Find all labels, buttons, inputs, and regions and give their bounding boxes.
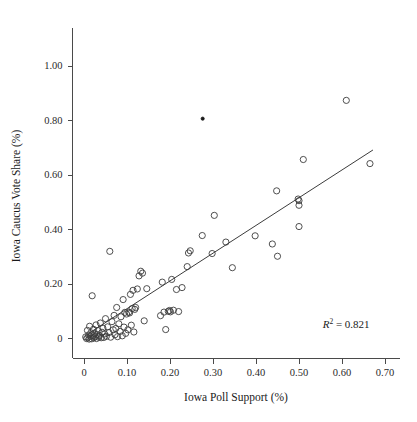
data-point bbox=[144, 286, 150, 292]
data-point-highlight bbox=[201, 117, 204, 120]
x-tick-label: 0.10 bbox=[118, 367, 136, 378]
data-point bbox=[89, 293, 95, 299]
data-point bbox=[300, 156, 306, 162]
data-point bbox=[131, 329, 137, 335]
data-point bbox=[163, 326, 169, 332]
x-axis-title: Iowa Poll Support (%) bbox=[184, 391, 288, 404]
chart-canvas: 00.200.400.600.801.00 00.100.200.300.400… bbox=[0, 0, 417, 422]
data-point bbox=[274, 188, 280, 194]
data-point bbox=[179, 284, 185, 290]
y-tick-label: 0.80 bbox=[44, 115, 62, 126]
data-point bbox=[157, 313, 163, 319]
x-tick-label: 0.40 bbox=[247, 367, 265, 378]
y-tick-label: 1.00 bbox=[44, 60, 62, 71]
data-point bbox=[296, 202, 302, 208]
data-point bbox=[343, 97, 349, 103]
y-axis-ticks: 00.200.400.600.801.00 bbox=[44, 60, 72, 344]
data-point bbox=[133, 304, 139, 310]
data-point bbox=[128, 322, 134, 328]
scatter-plot-figure: 00.200.400.600.801.00 00.100.200.300.400… bbox=[0, 0, 417, 422]
x-tick-label: 0.70 bbox=[376, 367, 394, 378]
data-point bbox=[252, 233, 258, 239]
y-tick-label: 0 bbox=[57, 333, 62, 344]
r-squared-value: = 0.821 bbox=[333, 318, 369, 330]
data-point bbox=[274, 253, 280, 259]
x-tick-label: 0.60 bbox=[333, 367, 351, 378]
data-point bbox=[114, 304, 120, 310]
data-point bbox=[199, 232, 205, 238]
x-tick-label: 0.50 bbox=[290, 367, 308, 378]
y-tick-label: 0.20 bbox=[44, 278, 62, 289]
x-tick-label: 0.30 bbox=[204, 367, 222, 378]
y-axis-title: Iowa Caucus Vote Share (%) bbox=[10, 130, 23, 263]
x-tick-label: 0.20 bbox=[161, 367, 179, 378]
data-point bbox=[296, 223, 302, 229]
data-point bbox=[223, 239, 229, 245]
x-tick-label: 0 bbox=[81, 367, 86, 378]
data-points-layer bbox=[83, 97, 373, 342]
data-point bbox=[134, 286, 140, 292]
plot-axes bbox=[73, 28, 401, 359]
data-point bbox=[211, 212, 217, 218]
data-point bbox=[229, 265, 235, 271]
data-point bbox=[107, 248, 113, 254]
r-squared-annotation: R2 = 0.821 bbox=[322, 317, 370, 330]
data-point bbox=[141, 318, 147, 324]
data-point bbox=[367, 161, 373, 167]
data-point bbox=[269, 241, 275, 247]
x-axis-ticks: 00.100.200.300.400.500.600.70 bbox=[81, 359, 394, 378]
regression-fit-line bbox=[89, 150, 373, 333]
y-tick-label: 0.40 bbox=[44, 224, 62, 235]
data-point bbox=[120, 296, 126, 302]
y-tick-label: 0.60 bbox=[44, 169, 62, 180]
